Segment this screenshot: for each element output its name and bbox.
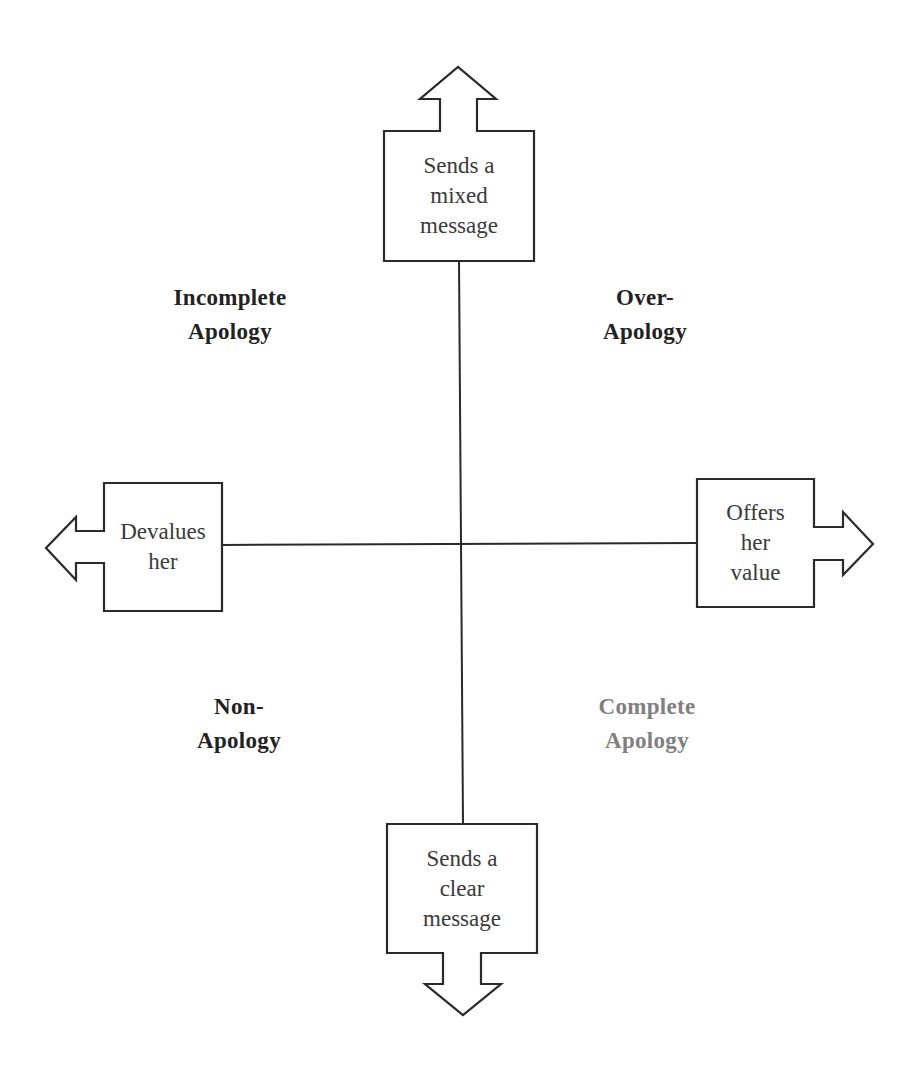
top-axis-label-line-1: Sends a — [424, 151, 495, 181]
quadrant-incomplete-apology: Incomplete Apology — [130, 281, 330, 349]
right-axis-label-line-2: her — [741, 528, 770, 558]
quadrant-label-line-1: Over- — [545, 281, 745, 315]
quadrant-non-apology: Non- Apology — [139, 690, 339, 758]
right-axis-label: Offers her value — [697, 479, 814, 607]
top-axis-label-line-3: message — [420, 211, 498, 241]
quadrant-complete-apology: Complete Apology — [547, 690, 747, 758]
quadrant-label-line-2: Apology — [130, 315, 330, 349]
quadrant-over-apology: Over- Apology — [545, 281, 745, 349]
bottom-axis-label-line-2: clear — [440, 874, 485, 904]
horizontal-axis-line — [222, 543, 697, 545]
left-axis-label: Devalues her — [104, 483, 222, 611]
left-axis-label-line-2: her — [148, 547, 177, 577]
quadrant-label-line-1: Incomplete — [130, 281, 330, 315]
quadrant-label-line-2: Apology — [139, 724, 339, 758]
quadrant-label-line-1: Non- — [139, 690, 339, 724]
right-axis-label-line-3: value — [731, 558, 781, 588]
quadrant-label-line-2: Apology — [547, 724, 747, 758]
bottom-axis-label-line-3: message — [423, 904, 501, 934]
vertical-axis-line — [459, 261, 463, 824]
right-axis-label-line-1: Offers — [726, 498, 784, 528]
bottom-axis-label: Sends a clear message — [387, 824, 537, 953]
top-axis-label: Sends a mixed message — [384, 131, 534, 261]
top-axis-label-line-2: mixed — [430, 181, 488, 211]
quadrant-label-line-1: Complete — [547, 690, 747, 724]
left-axis-label-line-1: Devalues — [120, 517, 206, 547]
quadrant-label-line-2: Apology — [545, 315, 745, 349]
bottom-axis-label-line-1: Sends a — [427, 844, 498, 874]
